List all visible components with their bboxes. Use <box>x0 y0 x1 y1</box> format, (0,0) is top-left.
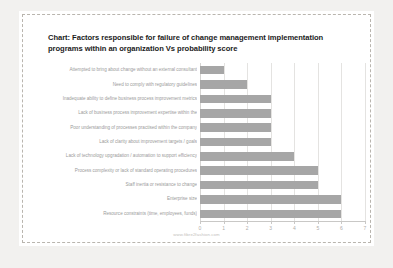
bar <box>200 66 224 75</box>
x-tick-label-2: 2 <box>242 225 252 231</box>
bar <box>200 138 271 147</box>
category-axis-labels: Attempted to bring about change without … <box>28 63 200 221</box>
x-tick-3 <box>271 221 272 224</box>
x-tick-label-3: 3 <box>266 225 276 231</box>
bar <box>200 195 341 204</box>
chart-title: Chart: Factors responsible for failure o… <box>48 33 348 54</box>
bar <box>200 210 341 219</box>
page-background: Chart: Factors responsible for failure o… <box>0 0 393 268</box>
category-label: Staff inertia or resistance to change <box>21 182 197 188</box>
bar <box>200 109 271 118</box>
x-tick-label-7: 7 <box>360 225 370 231</box>
x-tick-2 <box>247 221 248 224</box>
bar <box>200 181 318 190</box>
x-tick-0 <box>200 221 201 224</box>
gridline-6 <box>341 63 342 221</box>
x-tick-label-6: 6 <box>336 225 346 231</box>
bar <box>200 80 247 89</box>
bar <box>200 95 271 104</box>
category-label: Process complexity or lack of standard o… <box>21 168 197 174</box>
x-tick-label-4: 4 <box>289 225 299 231</box>
watermark-text: www.fibre2fashion.com <box>28 232 365 237</box>
x-tick-label-5: 5 <box>313 225 323 231</box>
category-label: Enterprise size <box>21 196 197 202</box>
x-tick-5 <box>318 221 319 224</box>
category-label: Lack of technology upgradation / automat… <box>21 153 197 159</box>
category-label: Poor understanding of processes practise… <box>21 125 197 131</box>
bar <box>200 152 294 161</box>
category-label: Lack of clarity about improvement target… <box>21 139 197 145</box>
x-axis-line <box>200 221 365 222</box>
category-label: Inadequate ability to define business pr… <box>21 96 197 102</box>
category-label: Need to comply with regulatory guideline… <box>21 82 197 88</box>
x-tick-6 <box>341 221 342 224</box>
category-label: Resource constraints (time, employees, f… <box>21 211 197 217</box>
chart-title-line-1: Chart: Factors responsible for failure o… <box>48 33 348 44</box>
chart-title-line-2: programs within an organization Vs proba… <box>48 44 348 55</box>
bars-region <box>200 63 365 221</box>
category-label: Lack of business process improvement exp… <box>21 110 197 116</box>
bar <box>200 166 318 175</box>
gridline-7 <box>365 63 366 221</box>
x-tick-label-0: 0 <box>195 225 205 231</box>
category-label: Attempted to bring about change without … <box>21 67 197 73</box>
x-tick-4 <box>294 221 295 224</box>
bar <box>200 123 271 132</box>
x-tick-7 <box>365 221 366 224</box>
x-tick-label-1: 1 <box>219 225 229 231</box>
chart-card: Chart: Factors responsible for failure o… <box>19 11 374 246</box>
x-tick-1 <box>224 221 225 224</box>
plot-area: Attempted to bring about change without … <box>28 63 365 235</box>
chart-container: Chart: Factors responsible for failure o… <box>28 19 365 238</box>
